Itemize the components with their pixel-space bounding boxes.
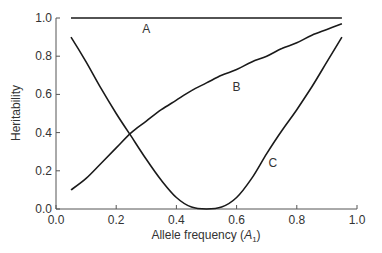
x-axis-title-var: A [243,228,252,242]
curve-label-c: C [268,156,277,170]
y-axis-title: Heritability [9,85,23,141]
x-tick-label: 0.6 [228,213,245,227]
x-axis-title-main: Allele frequency ( [151,228,244,242]
x-tick-label: 1.0 [349,213,366,227]
y-tick-label: 0.6 [35,87,52,101]
curve-label-b: B [233,80,241,94]
y-tick-label: 0.8 [35,49,52,63]
curve-c [71,37,342,209]
curve-label-a: A [142,22,150,36]
heritability-chart: 0.00.20.40.60.81.00.00.20.40.60.81.0 ABC… [0,0,382,253]
x-tick-label: 0.0 [48,213,65,227]
series-group: ABC [71,18,342,209]
y-tick-label: 1.0 [35,11,52,25]
y-tick-label: 0.4 [35,126,52,140]
axes: 0.00.20.40.60.81.00.00.20.40.60.81.0 [35,11,365,227]
x-axis-title: Allele frequency (A1) [151,228,260,244]
x-tick-label: 0.2 [108,213,125,227]
x-tick-label: 0.4 [168,213,185,227]
x-tick-label: 0.8 [288,213,305,227]
y-tick-label: 0.2 [35,164,52,178]
x-axis-title-close: ) [257,228,261,242]
